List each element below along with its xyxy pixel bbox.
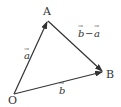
- point-label-o: O: [8, 94, 17, 107]
- vector-ba-a-arrow: →: [94, 22, 99, 29]
- vector-ba-minus: −: [85, 28, 93, 39]
- vector-ba-b-arrow: →: [78, 22, 83, 29]
- vector-oa-line: [14, 22, 47, 94]
- point-label-b: B: [106, 68, 114, 81]
- vector-b-label: b: [59, 85, 65, 96]
- point-label-a: A: [42, 5, 52, 18]
- vector-ob-line: [14, 72, 102, 94]
- vector-ba-a: a: [94, 28, 100, 39]
- vector-a-arrow: →: [24, 45, 29, 52]
- vector-ba-b: b: [78, 28, 84, 39]
- vector-b-arrow: →: [59, 79, 64, 86]
- vector-diagram: A B O a → b → b → − a →: [0, 0, 121, 107]
